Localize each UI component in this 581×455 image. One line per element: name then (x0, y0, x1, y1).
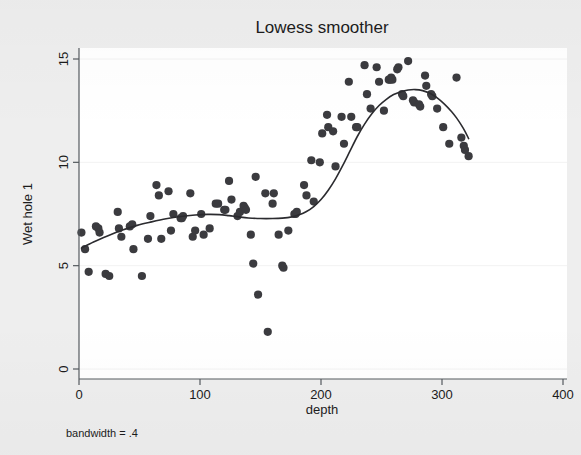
data-point (167, 226, 175, 234)
data-point (337, 113, 345, 121)
x-tick-label-100: 100 (189, 387, 211, 402)
y-axis-title: Wet hole 1 (20, 183, 35, 245)
data-point (105, 272, 113, 280)
data-point (129, 245, 137, 253)
data-point (155, 191, 163, 199)
data-point (388, 76, 396, 84)
data-point (433, 105, 441, 113)
data-point (206, 224, 214, 232)
data-point (186, 189, 194, 197)
bandwidth-note: bandwidth = .4 (66, 427, 138, 439)
data-point (247, 231, 255, 239)
data-point (214, 200, 222, 208)
data-point (242, 206, 250, 214)
data-point (300, 181, 308, 189)
data-point (269, 200, 277, 208)
data-point (138, 272, 146, 280)
data-point (316, 158, 324, 166)
data-point (200, 231, 208, 239)
data-point (439, 123, 447, 131)
data-point (164, 187, 172, 195)
x-tick-label-300: 300 (431, 387, 453, 402)
data-point (340, 140, 348, 148)
y-tick-label-15: 15 (56, 52, 71, 66)
chart-title: Lowess smoother (255, 18, 389, 37)
data-point (261, 189, 269, 197)
data-point (329, 127, 337, 135)
x-tick-label-200: 200 (310, 387, 332, 402)
data-point (284, 226, 292, 234)
data-point (445, 140, 453, 148)
x-tick-label-0: 0 (75, 387, 82, 402)
data-point (114, 208, 122, 216)
data-point (307, 156, 315, 164)
y-axis-ticks: 051015 (56, 52, 79, 373)
data-point (375, 78, 383, 86)
data-point (264, 328, 272, 336)
data-point (117, 233, 125, 241)
data-point (254, 291, 262, 299)
y-tick-label-10: 10 (56, 155, 71, 169)
data-point (416, 102, 424, 110)
x-axis-ticks: 0100200300400 (75, 379, 573, 402)
data-point (421, 71, 429, 79)
data-point (157, 235, 165, 243)
data-point (452, 74, 460, 82)
data-point (363, 90, 371, 98)
data-point (380, 107, 388, 115)
data-point (146, 212, 154, 220)
data-point (191, 226, 199, 234)
data-point (465, 152, 473, 160)
y-tick-label-5: 5 (56, 262, 71, 269)
data-point (457, 133, 465, 141)
chart-screenshot: 051015 0100200300400 Lowess smoother dep… (0, 0, 581, 455)
data-point (302, 191, 310, 199)
data-point (95, 229, 103, 237)
data-point (347, 113, 355, 121)
data-point (318, 129, 326, 137)
y-tick-label-0: 0 (56, 365, 71, 372)
data-point (331, 162, 339, 170)
data-point (85, 268, 93, 276)
data-point (225, 177, 233, 185)
data-point (252, 173, 260, 181)
data-point (144, 235, 152, 243)
x-axis-title: depth (306, 402, 339, 417)
data-point (360, 61, 368, 69)
data-point (279, 264, 287, 272)
data-point (275, 231, 283, 239)
data-point (345, 78, 353, 86)
data-point (270, 189, 278, 197)
data-point (249, 260, 257, 268)
data-point (323, 111, 331, 119)
x-tick-label-400: 400 (552, 387, 574, 402)
data-point (422, 82, 430, 90)
data-point (373, 63, 381, 71)
data-point (227, 195, 235, 203)
data-point (152, 181, 160, 189)
lowess-smoother-chart: 051015 0100200300400 Lowess smoother dep… (0, 0, 581, 455)
data-point (399, 92, 407, 100)
data-point (404, 57, 412, 65)
data-point (221, 206, 229, 214)
data-point (394, 63, 402, 71)
